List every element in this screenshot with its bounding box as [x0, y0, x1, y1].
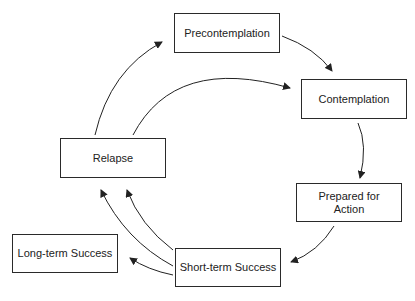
- arrow-relapse-to-precontemplation: [95, 42, 162, 135]
- node-label: Short-term Success: [180, 261, 277, 274]
- arrow-precontemplation-to-contemplation: [282, 36, 332, 71]
- arrow-contemplation-to-prepared: [358, 123, 364, 178]
- node-long-term-success: Long-term Success: [12, 234, 118, 273]
- node-label-line2: Action: [334, 203, 365, 216]
- arrow-prepared-to-short-term: [291, 226, 334, 262]
- node-label: Relapse: [93, 152, 133, 165]
- node-label-line1: Prepared for: [318, 190, 379, 203]
- node-precontemplation: Precontemplation: [174, 13, 280, 53]
- node-label: Precontemplation: [184, 27, 270, 40]
- node-relapse: Relapse: [60, 138, 166, 178]
- node-contemplation: Contemplation: [301, 79, 407, 119]
- node-short-term-success: Short-term Success: [175, 248, 281, 287]
- arrow-short-term-to-long-term: [130, 258, 173, 275]
- arrow-short-term-to-relapse-inner: [127, 190, 173, 250]
- node-label: Long-term Success: [18, 247, 113, 260]
- node-prepared-for-action: Prepared for Action: [296, 183, 402, 222]
- arrow-relapse-to-contemplation: [133, 78, 290, 135]
- node-label: Contemplation: [319, 93, 390, 106]
